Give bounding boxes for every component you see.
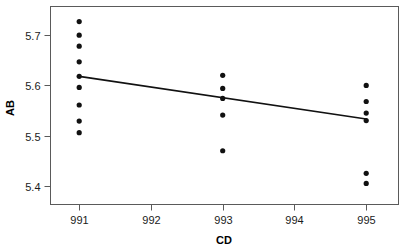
x-tick-label-994: 994 <box>285 214 303 226</box>
data-point <box>364 181 369 186</box>
data-point <box>220 86 225 91</box>
y-axis-tick-labels: 5.45.55.65.7 <box>25 30 40 193</box>
y-axis-ticks <box>45 36 51 187</box>
y-tick-label-5.6: 5.6 <box>25 80 40 92</box>
data-point <box>220 73 225 78</box>
data-point <box>77 118 82 123</box>
data-point <box>364 83 369 88</box>
data-point <box>77 33 82 38</box>
plot-frame <box>51 7 399 205</box>
data-point <box>220 112 225 117</box>
data-point <box>364 110 369 115</box>
data-points-group <box>77 19 369 186</box>
y-tick-label-5.7: 5.7 <box>25 30 40 42</box>
x-axis-tick-labels: 991992993994995 <box>70 214 375 226</box>
y-axis-title: AB <box>4 100 16 116</box>
data-point <box>77 59 82 64</box>
scatter-plot: 991992993994995 5.45.55.65.7 CD AB <box>0 0 400 250</box>
x-tick-label-991: 991 <box>70 214 88 226</box>
y-tick-label-5.5: 5.5 <box>25 131 40 143</box>
x-axis-title: CD <box>216 234 232 246</box>
x-axis-ticks <box>80 205 367 211</box>
data-point <box>77 19 82 24</box>
data-point <box>364 99 369 104</box>
data-point <box>77 102 82 107</box>
data-point <box>77 85 82 90</box>
x-tick-label-993: 993 <box>214 214 232 226</box>
data-point <box>364 171 369 176</box>
x-tick-label-995: 995 <box>357 214 375 226</box>
data-point <box>77 44 82 49</box>
data-point <box>220 148 225 153</box>
data-point <box>77 130 82 135</box>
y-tick-label-5.4: 5.4 <box>25 181 40 193</box>
x-tick-label-992: 992 <box>142 214 160 226</box>
chart-container: 991992993994995 5.45.55.65.7 CD AB <box>0 0 400 250</box>
